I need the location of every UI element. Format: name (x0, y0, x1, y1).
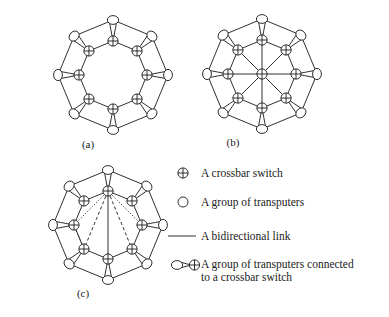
transputer-group-node (107, 126, 118, 135)
transputer-group-ellipse (102, 166, 113, 175)
crossbar-switch-node (142, 70, 152, 80)
transputer-group-node (62, 257, 76, 271)
transputer-group-ellipse (49, 219, 58, 230)
bidirectional-link-outer (53, 186, 69, 225)
subfigure-caption-a: (a) (63, 138, 113, 150)
transputer-group-node (67, 107, 81, 121)
crossbar-switch-node (103, 254, 113, 264)
transputer-group-ellipse (67, 107, 81, 121)
bidirectional-link-outer (152, 36, 168, 75)
crossbar-switch-node (127, 196, 137, 206)
crossbar-switch-node (291, 69, 301, 79)
bidirectional-link-outer (262, 113, 301, 129)
legend-group-ellipse (171, 261, 182, 270)
crossbar-switch-node (108, 104, 118, 114)
crossbar-switch-node (127, 244, 137, 254)
transputer-group-node (140, 257, 154, 271)
transputer-group-ellipse (256, 125, 267, 134)
crossbar-switch-node (132, 94, 142, 104)
bidirectional-link-outer (53, 225, 69, 264)
bidirectional-link-outer (69, 264, 108, 280)
bidirectional-link-outer (74, 20, 113, 36)
crossbar-switch-node (257, 35, 267, 45)
legend-crossbar-switch-icon (178, 168, 188, 178)
transputer-group-node (256, 125, 267, 134)
transputer-group-ellipse (62, 179, 76, 193)
subfigure-c (49, 166, 168, 285)
legend-transputer-group-connected-icon (171, 260, 199, 270)
subfigure-caption-c: (c) (58, 287, 108, 299)
transputer-group-node (159, 219, 168, 230)
crossbar-switch-hub (257, 69, 267, 79)
node-layer-a (54, 16, 173, 135)
crossbar-switch-node (223, 69, 233, 79)
transputer-group-ellipse (145, 107, 159, 121)
transputer-group-ellipse (216, 106, 230, 120)
transputer-group-ellipse (67, 29, 81, 43)
transputer-group-ellipse (62, 257, 76, 271)
transputer-group-node (313, 68, 322, 79)
crossbar-switch-node (108, 36, 118, 46)
transputer-group-node (107, 16, 118, 25)
crossbar-switch-node (281, 93, 291, 103)
bidirectional-link-outer (147, 225, 163, 264)
transputer-group-node (54, 69, 63, 80)
crossbar-switch-node (84, 46, 94, 56)
bidirectional-link-outer (223, 113, 262, 129)
transputer-group-ellipse (102, 276, 113, 285)
bidirectional-link-outer (113, 20, 152, 36)
crossbar-switch-node (233, 45, 243, 55)
chord-link-dotted (74, 191, 108, 225)
transputer-group-node (102, 166, 113, 175)
subfigure-b (203, 15, 322, 134)
bidirectional-link-outer (108, 170, 147, 186)
transputer-group-ellipse (140, 257, 154, 271)
bidirectional-link-outer (113, 114, 152, 130)
transputer-group-ellipse (164, 69, 173, 80)
chord-link-dotted (108, 191, 142, 225)
bidirectional-link-outer (207, 35, 223, 74)
transputer-group-node (62, 179, 76, 193)
bidirectional-link-outer (108, 264, 147, 280)
bidirectional-link-outer (58, 36, 74, 75)
transputer-group-ellipse (313, 68, 322, 79)
transputer-group-node (216, 28, 230, 42)
subfigure-caption-b: (b) (208, 136, 258, 148)
transputer-group-node (67, 29, 81, 43)
crossbar-switch-node (69, 220, 79, 230)
transputer-group-ellipse (145, 29, 159, 43)
node-layer-b (203, 15, 322, 134)
crossbar-switch-node (84, 94, 94, 104)
legend-switch-glyph (189, 260, 199, 270)
transputer-group-node (216, 106, 230, 120)
bidirectional-link-outer (207, 74, 223, 113)
transputer-group-node (164, 69, 173, 80)
transputer-group-node (294, 106, 308, 120)
bidirectional-link-outer (301, 74, 317, 113)
transputer-group-ellipse (294, 28, 308, 42)
bidirectional-link-outer (262, 19, 301, 35)
transputer-group-ellipse (203, 68, 212, 79)
bidirectional-link-outer (223, 19, 262, 35)
legend-transputer-group-icon (178, 197, 188, 207)
bidirectional-link-outer (74, 114, 113, 130)
crossbar-switch-node (132, 46, 142, 56)
transputer-group-ellipse (256, 15, 267, 24)
crossbar-switch-node (79, 244, 89, 254)
transputer-group-ellipse (54, 69, 63, 80)
bidirectional-link-outer (147, 186, 163, 225)
crossbar-switch-node (281, 45, 291, 55)
legend-label-bidirectional-link: A bidirectional link (201, 230, 290, 243)
transputer-group-ellipse (107, 16, 118, 25)
crossbar-switch-node (137, 220, 147, 230)
legend-label-crossbar-switch: A crossbar switch (201, 167, 283, 180)
transputer-group-node (294, 28, 308, 42)
transputer-group-ellipse (216, 28, 230, 42)
transputer-group-ellipse (294, 106, 308, 120)
crossbar-switch-node (257, 103, 267, 113)
bidirectional-link-outer (152, 75, 168, 114)
transputer-group-node (102, 276, 113, 285)
transputer-group-node (140, 179, 154, 193)
crossbar-switch-node (74, 70, 84, 80)
transputer-group-ellipse (140, 179, 154, 193)
